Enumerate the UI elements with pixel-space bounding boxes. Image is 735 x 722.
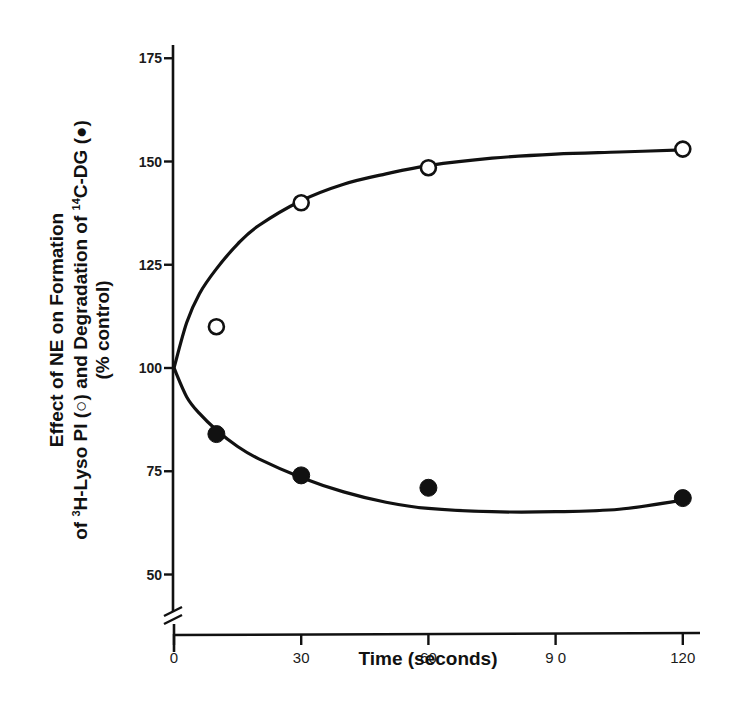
chart: Effect of NE on Formation of 3H-Lyso PI … — [0, 0, 735, 722]
chart-plot: Effect of NE on Formation of 3H-Lyso PI … — [0, 0, 735, 722]
axes: 5075100125150175030609 0120 — [139, 45, 700, 666]
open-circle-data-point — [675, 142, 690, 157]
y-tick-label: 50 — [146, 567, 162, 583]
y-axis-label-line-3: (% control) — [92, 280, 113, 379]
open-circle-legend-icon: ○ — [70, 400, 91, 411]
open-circle-data-point — [209, 319, 224, 334]
open-circle-data-point — [421, 160, 436, 175]
fit-curve — [174, 150, 683, 368]
x-tick-label: 120 — [670, 649, 695, 666]
fit-curves — [174, 150, 683, 512]
filled-circle-data-point — [674, 490, 691, 507]
y-tick-label: 100 — [139, 360, 163, 376]
y-axis-label-line-1: Effect of NE on Formation — [46, 213, 67, 447]
x-tick-label: 0 — [170, 649, 178, 666]
data-points — [208, 142, 691, 507]
x-axis-line — [173, 633, 700, 635]
filled-circle-data-point — [420, 479, 437, 496]
axis-break-mark — [164, 615, 182, 624]
y-tick-label: 175 — [139, 50, 163, 66]
x-tick-label: 9 0 — [545, 649, 566, 666]
filled-circle-data-point — [208, 426, 225, 443]
y-axis-label: Effect of NE on Formation of 3H-Lyso PI … — [46, 120, 113, 540]
y-tick-label: 150 — [139, 154, 163, 170]
x-axis-label: Time (seconds) — [358, 648, 497, 669]
y-tick-label: 75 — [146, 463, 162, 479]
open-circle-data-point — [294, 195, 309, 210]
y-axis-label-line-2: of 3H-Lyso PI (○) and Degradation of 14C… — [70, 120, 91, 540]
filled-circle-legend-icon: ● — [70, 127, 91, 138]
x-tick-label: 30 — [293, 649, 310, 666]
y-tick-label: 125 — [139, 257, 163, 273]
filled-circle-data-point — [293, 467, 310, 484]
